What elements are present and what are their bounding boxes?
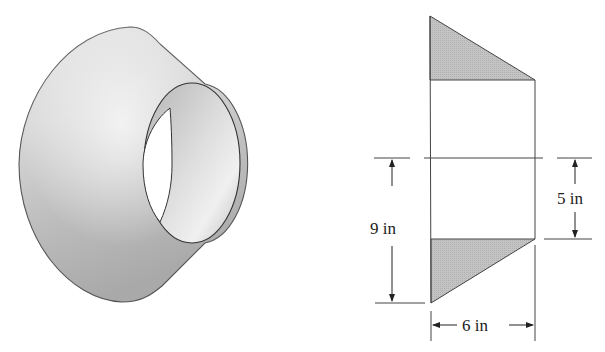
dimension-label-6in: 6 in <box>462 316 488 335</box>
frustum-3d-view <box>19 27 248 302</box>
dimension-label-5in: 5 in <box>557 189 583 208</box>
dimension-label-9in: 9 in <box>370 219 396 238</box>
dimension-bore-height: 5 in <box>544 158 592 239</box>
diagram-canvas: 9 in 5 in 6 in <box>0 0 605 352</box>
cross-section-view <box>424 16 543 303</box>
shaded-region-top <box>430 16 535 80</box>
shaded-region-bottom <box>431 239 535 303</box>
dimension-overall-height: 9 in <box>370 158 425 303</box>
